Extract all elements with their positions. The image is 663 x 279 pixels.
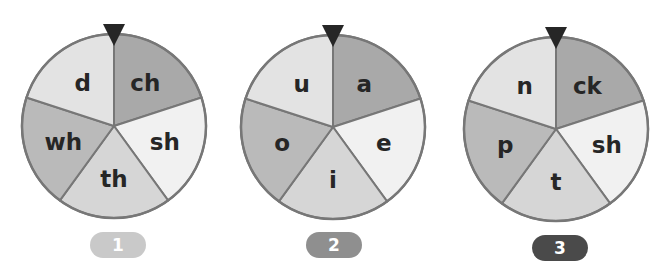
segment-label: e — [376, 130, 392, 156]
segment-label: ch — [130, 70, 160, 96]
segment-label: n — [516, 73, 532, 99]
spinner-1[interactable]: chshthwhd 1 — [0, 0, 220, 279]
spinner-number-badge: 1 — [90, 232, 146, 258]
segment-label: ck — [573, 73, 603, 99]
segment-label: t — [551, 169, 562, 195]
spinner-2[interactable]: aeiou 2 — [220, 0, 440, 279]
spinner-number-badge: 3 — [532, 235, 588, 261]
spinner-3[interactable]: ckshtpn 3 — [440, 0, 660, 279]
segment-label: p — [497, 132, 513, 158]
spinner-wheel[interactable]: ckshtpn — [440, 0, 663, 240]
segment-label: th — [100, 166, 127, 192]
segment-label: u — [293, 71, 309, 97]
spinner-number-badge: 2 — [306, 232, 362, 258]
segment-label: i — [329, 167, 337, 193]
spinner-wheel[interactable]: aeiou — [220, 0, 450, 240]
segment-label: wh — [44, 129, 82, 155]
segment-label: sh — [150, 129, 180, 155]
spinner-wheel[interactable]: chshthwhd — [0, 0, 230, 240]
segment-label: a — [357, 71, 373, 97]
segment-label: sh — [592, 132, 622, 158]
segment-label: o — [274, 130, 290, 156]
segment-label: d — [74, 70, 90, 96]
